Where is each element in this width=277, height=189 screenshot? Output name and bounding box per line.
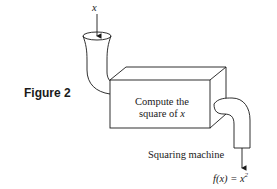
box-text-line1: Compute the: [112, 96, 212, 108]
box-text: Compute the square of x: [112, 96, 212, 120]
output-label: f(x) = x2: [213, 171, 248, 184]
machine-caption: Squaring machine: [148, 149, 224, 160]
output-pipe: [214, 98, 250, 148]
output-label-main: f(x) = x: [213, 173, 245, 184]
input-pipe: [83, 32, 112, 94]
box-text-var: x: [180, 108, 185, 119]
box-text-prefix: square of: [139, 108, 180, 119]
input-label: x: [92, 2, 97, 13]
output-label-exponent: 2: [245, 171, 249, 179]
box-text-line2: square of x: [112, 108, 212, 120]
figure-label: Figure 2: [24, 86, 71, 100]
